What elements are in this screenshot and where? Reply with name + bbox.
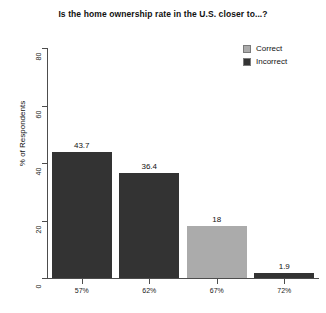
x-axis-tick-label: 67% (210, 287, 224, 294)
x-axis-tick-label: 72% (277, 287, 291, 294)
x-axis-tick (82, 279, 83, 284)
legend-swatch-icon (243, 45, 251, 53)
bar (119, 173, 179, 278)
bar (52, 152, 112, 278)
y-axis-tick-label: 40 (35, 161, 42, 183)
x-axis-tick (284, 279, 285, 284)
legend-item: Correct (243, 44, 287, 54)
legend-item-label: Correct (256, 44, 282, 54)
chart-figure: Is the home ownership rate in the U.S. c… (0, 0, 326, 313)
y-axis-tick-label: 80 (35, 46, 42, 68)
bar-value-label: 36.4 (141, 162, 157, 171)
y-axis-tick (42, 163, 47, 164)
plot-area (48, 48, 318, 278)
chart-title: Is the home ownership rate in the U.S. c… (0, 9, 326, 19)
y-axis-tick (42, 278, 47, 279)
y-axis-tick (42, 221, 47, 222)
legend-swatch-icon (243, 58, 251, 66)
y-axis-tick (42, 106, 47, 107)
chart-legend: CorrectIncorrect (243, 44, 287, 67)
x-axis-line (47, 278, 319, 279)
bar-value-label: 18 (212, 215, 221, 224)
x-axis-tick-label: 62% (142, 287, 156, 294)
x-axis-tick (149, 279, 150, 284)
y-axis-tick-label: 0 (35, 276, 42, 298)
y-axis-tick-label: 20 (35, 218, 42, 240)
legend-item-label: Incorrect (256, 57, 287, 67)
x-axis-tick-label: 57% (75, 287, 89, 294)
bar-value-label: 1.9 (279, 262, 290, 271)
bar (187, 226, 247, 278)
y-axis-title: % of Respondents (18, 54, 27, 214)
legend-item: Incorrect (243, 57, 287, 67)
x-axis-tick (217, 279, 218, 284)
y-axis-tick (42, 48, 47, 49)
y-axis-tick-label: 60 (35, 103, 42, 125)
bar-value-label: 43.7 (74, 141, 90, 150)
bar (254, 273, 314, 278)
